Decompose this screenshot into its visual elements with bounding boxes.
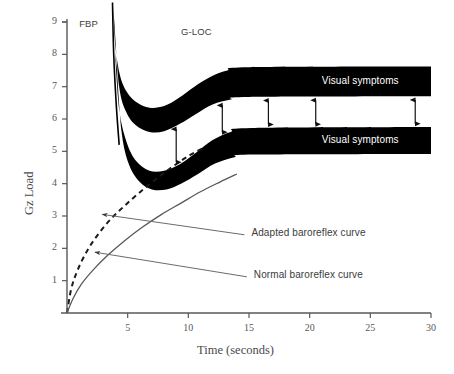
x-axis-title: Time (seconds) xyxy=(197,343,274,358)
x-tick-label: 10 xyxy=(178,322,198,333)
y-tick-label: 5 xyxy=(43,144,57,155)
y-tick-label: 3 xyxy=(43,209,57,220)
y-tick-label: 7 xyxy=(43,80,57,91)
y-tick-label: 2 xyxy=(43,241,57,252)
chart-figure: 12345678951015202530 FBPG-LOCVisual symp… xyxy=(0,0,454,374)
x-tick-label: 20 xyxy=(300,322,320,333)
x-tick-label: 15 xyxy=(239,322,259,333)
callout-leader-line xyxy=(95,252,247,277)
adapted-baroreflex-callout-label: Adapted baroreflex curve xyxy=(251,227,365,238)
normal-baroreflex-callout-label: Normal baroreflex curve xyxy=(254,269,363,280)
x-tick-label: 30 xyxy=(421,322,441,333)
y-tick-label: 6 xyxy=(43,112,57,123)
chart-plot-area xyxy=(0,0,454,374)
y-tick-label: 9 xyxy=(43,15,57,26)
tolerance-band xyxy=(113,6,431,133)
x-tick-label: 5 xyxy=(118,322,138,333)
tolerance-bands-group xyxy=(113,6,431,190)
callout-leader-line xyxy=(102,214,244,234)
visual-symptoms-band-label: Visual symptoms xyxy=(322,75,399,86)
visual-symptoms-band-label: Visual symptoms xyxy=(322,134,399,145)
axes-group xyxy=(61,19,431,318)
y-axis-title: Gz Load xyxy=(22,172,37,215)
y-tick-label: 8 xyxy=(43,47,57,58)
y-tick-label: 4 xyxy=(43,177,57,188)
y-tick-label: 1 xyxy=(43,274,57,285)
fbp-label: FBP xyxy=(79,18,98,29)
callout-leader-lines xyxy=(95,214,247,276)
x-tick-label: 25 xyxy=(360,322,380,333)
gloc-label: G-LOC xyxy=(181,26,212,37)
